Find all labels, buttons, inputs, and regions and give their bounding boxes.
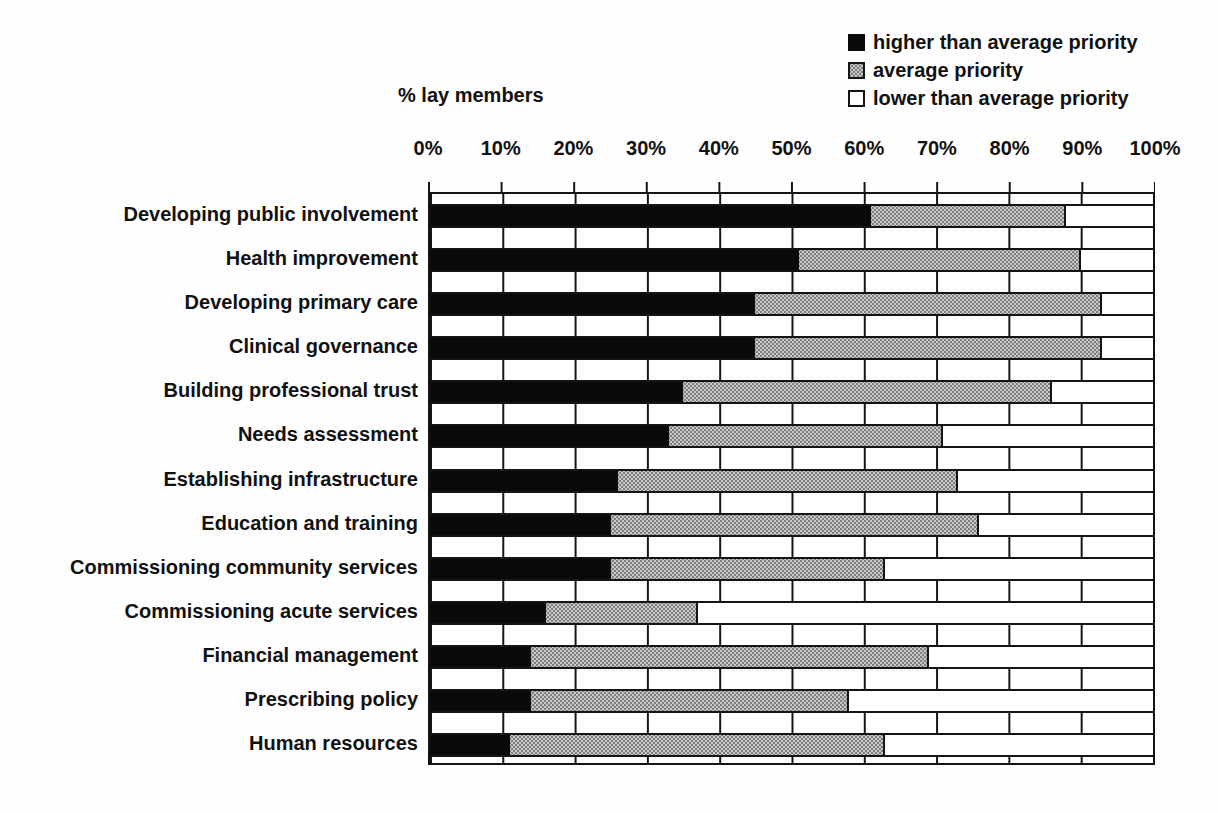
legend-swatch-black-icon [848, 34, 865, 51]
x-axis-title: % lay members [398, 84, 544, 107]
bar-segment-lower [1081, 250, 1153, 270]
category-label: Clinical governance [0, 335, 418, 358]
bar-segment-higher [430, 294, 755, 314]
bar-segment-average [683, 382, 1052, 402]
figure-canvas: higher than average priority average pri… [0, 0, 1218, 813]
bar-segment-lower [1066, 206, 1153, 226]
bar-segment-higher [430, 426, 669, 446]
bar-segment-average [531, 647, 929, 667]
stacked-bar [428, 336, 1155, 360]
bar-segment-higher [430, 382, 683, 402]
bar-segment-average [755, 294, 1102, 314]
bar-segment-lower [1052, 382, 1153, 402]
category-label: Prescribing policy [0, 687, 418, 710]
stacked-bar [428, 248, 1155, 272]
bar-segment-lower [885, 735, 1153, 755]
bar-segment-lower [943, 426, 1153, 446]
bar-segment-average [755, 338, 1102, 358]
stacked-bar [428, 469, 1155, 493]
bar-segment-lower [979, 515, 1153, 535]
bar-segment-average [611, 559, 886, 579]
bar-segment-higher [430, 559, 611, 579]
bar-segment-higher [430, 647, 531, 667]
plot-area [428, 192, 1155, 765]
stacked-bar [428, 204, 1155, 228]
bar-segment-lower [929, 647, 1153, 667]
bar-segment-average [546, 603, 698, 623]
chart-legend: higher than average priority average pri… [848, 28, 1138, 112]
category-label: Commissioning acute services [0, 599, 418, 622]
legend-label-lower: lower than average priority [873, 87, 1129, 110]
legend-item-higher: higher than average priority [848, 28, 1138, 56]
bar-segment-average [510, 735, 886, 755]
legend-swatch-white-icon [848, 90, 865, 107]
stacked-bar [428, 601, 1155, 625]
bar-segment-lower [698, 603, 1154, 623]
category-label: Human resources [0, 731, 418, 754]
bar-segment-average [611, 515, 980, 535]
bar-segment-higher [430, 338, 755, 358]
bar-segment-average [531, 691, 849, 711]
legend-swatch-gray-icon [848, 62, 865, 79]
x-tick-label: 100% [1110, 137, 1200, 160]
bar-segment-average [669, 426, 944, 446]
category-label: Financial management [0, 643, 418, 666]
bar-segment-higher [430, 471, 618, 491]
x-axis-ticks [428, 182, 1155, 192]
category-label: Education and training [0, 511, 418, 534]
category-label: Developing public involvement [0, 203, 418, 226]
stacked-bar [428, 424, 1155, 448]
category-label: Building professional trust [0, 379, 418, 402]
stacked-bar [428, 689, 1155, 713]
bar-segment-lower [885, 559, 1153, 579]
stacked-bar [428, 733, 1155, 757]
bar-segment-average [799, 250, 1081, 270]
bar-segment-average [618, 471, 958, 491]
bar-segment-higher [430, 515, 611, 535]
bar-segment-lower [958, 471, 1153, 491]
bar-segment-average [871, 206, 1066, 226]
stacked-bar [428, 645, 1155, 669]
bar-segment-lower [849, 691, 1153, 711]
category-label: Establishing infrastructure [0, 467, 418, 490]
category-label: Needs assessment [0, 423, 418, 446]
stacked-bar [428, 380, 1155, 404]
legend-label-higher: higher than average priority [873, 31, 1138, 54]
stacked-bar [428, 513, 1155, 537]
bar-segment-higher [430, 691, 531, 711]
category-label: Commissioning community services [0, 555, 418, 578]
legend-item-lower: lower than average priority [848, 84, 1138, 112]
bar-segment-lower [1102, 338, 1153, 358]
bar-segment-lower [1102, 294, 1153, 314]
bar-segment-higher [430, 250, 799, 270]
bar-segment-higher [430, 603, 546, 623]
category-label: Health improvement [0, 247, 418, 270]
legend-label-average: average priority [873, 59, 1023, 82]
stacked-bar [428, 292, 1155, 316]
bar-segment-higher [430, 735, 510, 755]
legend-item-average: average priority [848, 56, 1138, 84]
category-label: Developing primary care [0, 291, 418, 314]
stacked-bar [428, 557, 1155, 581]
bar-segment-higher [430, 206, 871, 226]
